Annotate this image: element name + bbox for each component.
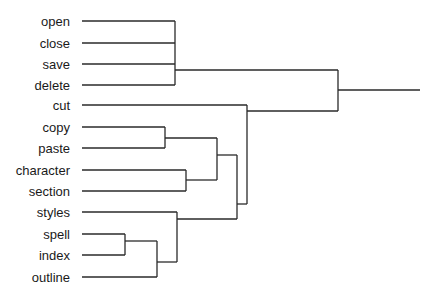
leaf-label-index: index — [39, 248, 71, 263]
leaf-label-copy: copy — [43, 120, 71, 135]
leaf-label-save: save — [43, 57, 70, 72]
leaf-label-styles: styles — [37, 205, 71, 220]
leaf-label-paste: paste — [38, 141, 70, 156]
leaf-label-delete: delete — [35, 78, 70, 93]
leaf-label-close: close — [40, 36, 70, 51]
leaf-labels: openclosesavedeletecutcopypastecharacter… — [16, 14, 71, 285]
leaf-label-cut: cut — [53, 98, 71, 113]
leaf-label-spell: spell — [43, 227, 70, 242]
leaf-label-section: section — [29, 184, 70, 199]
dendrogram-links — [82, 21, 420, 277]
dendrogram: openclosesavedeletecutcopypastecharacter… — [0, 0, 437, 294]
leaf-label-open: open — [41, 14, 70, 29]
leaf-label-outline: outline — [32, 270, 70, 285]
leaf-label-character: character — [16, 163, 71, 178]
